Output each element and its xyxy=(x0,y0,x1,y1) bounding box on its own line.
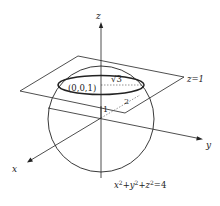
plane-z1 xyxy=(20,56,184,113)
z-axis-arrow-icon xyxy=(99,22,103,28)
radius-label: √3 xyxy=(111,74,122,84)
z-axis-label: z xyxy=(95,11,101,21)
sphere-plane-diagram: z y x z=1 (0,0,1) √3 1 2 x2+y2+z2=4 xyxy=(0,0,220,206)
center-point-label: (0,0,1) xyxy=(68,83,96,93)
y-axis-label: y xyxy=(205,140,212,150)
x-axis xyxy=(31,118,101,160)
height-label: 1 xyxy=(103,105,108,114)
eq-plus-2: + xyxy=(138,180,145,190)
sphere-equation: x2+y2+z2=4 xyxy=(114,179,166,191)
sphere-radius-label: 2 xyxy=(124,97,129,106)
y-axis-arrow-icon xyxy=(196,136,203,140)
plane-label: z=1 xyxy=(186,74,204,84)
eq-rhs: =4 xyxy=(154,180,167,190)
eq-plus-1: + xyxy=(123,180,130,190)
x-axis-label: x xyxy=(12,164,17,174)
x-axis-arrow-icon xyxy=(27,158,33,163)
